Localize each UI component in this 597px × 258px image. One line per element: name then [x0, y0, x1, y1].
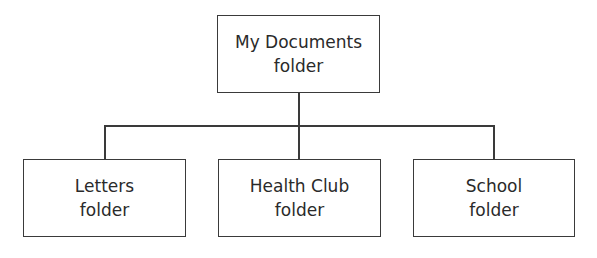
root-connector: [298, 92, 300, 126]
node-school: School folder: [413, 159, 575, 237]
node-label-line2: folder: [274, 54, 323, 78]
node-letters: Letters folder: [23, 159, 186, 237]
node-label-line2: folder: [80, 198, 129, 222]
node-label-line1: Letters: [75, 174, 134, 198]
node-my-documents: My Documents folder: [217, 15, 380, 93]
node-label-line2: folder: [469, 198, 518, 222]
node-label-line1: School: [466, 174, 522, 198]
node-label-line1: My Documents: [235, 30, 362, 54]
connector-school: [493, 125, 495, 160]
branch-bar: [104, 125, 495, 127]
node-label-line1: Health Club: [250, 174, 349, 198]
node-health-club: Health Club folder: [218, 159, 381, 237]
folder-tree-diagram: My Documents folder Letters folder Healt…: [0, 0, 597, 258]
connector-health-club: [298, 125, 300, 160]
node-label-line2: folder: [275, 198, 324, 222]
connector-letters: [104, 125, 106, 160]
